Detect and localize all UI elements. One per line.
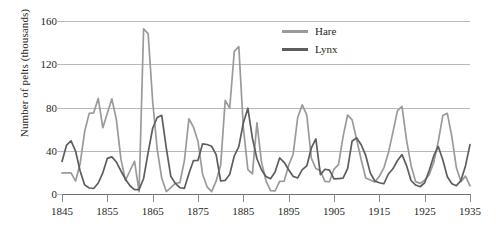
x-axis-line (62, 194, 471, 195)
legend-swatch-hare-icon (282, 30, 308, 33)
x-tick-mark (62, 194, 63, 202)
x-tick-mark (198, 194, 199, 202)
x-tick-label: 1855 (96, 205, 118, 217)
legend-label-lynx: Lynx (315, 44, 338, 55)
x-tick-mark (470, 194, 471, 202)
plot-area: 04080120160 1845185518651875188518951905… (62, 21, 470, 194)
x-tick-mark (425, 194, 426, 202)
x-tick-label: 1865 (142, 205, 164, 217)
x-tick-label: 1925 (414, 205, 436, 217)
x-tick-mark (289, 194, 290, 202)
chart-figure: Number of pelts (thousands) 04080120160 … (0, 0, 496, 237)
x-tick-mark (107, 194, 108, 202)
legend-label-hare: Hare (315, 26, 336, 37)
x-tick-mark (379, 194, 380, 202)
legend-item-hare: Hare (282, 22, 338, 40)
legend-swatch-lynx-icon (282, 48, 308, 51)
x-tick-mark (334, 194, 335, 202)
x-tick-label: 1905 (323, 205, 345, 217)
legend-item-lynx: Lynx (282, 40, 338, 58)
y-axis-title: Number of pelts (thousands) (18, 0, 30, 153)
x-tick-mark (153, 194, 154, 202)
x-tick-label: 1895 (278, 205, 300, 217)
x-tick-label: 1875 (187, 205, 209, 217)
chart-legend: Hare Lynx (282, 22, 338, 58)
x-tick-mark (243, 194, 244, 202)
y-tick-label: 120 (41, 58, 58, 70)
series-lines (62, 21, 470, 194)
series-line-hare (62, 29, 470, 192)
x-tick-label: 1915 (368, 205, 390, 217)
x-tick-label: 1845 (51, 205, 73, 217)
x-tick-label: 1935 (459, 205, 481, 217)
x-tick-label: 1885 (232, 205, 254, 217)
y-tick-label: 160 (41, 15, 58, 27)
